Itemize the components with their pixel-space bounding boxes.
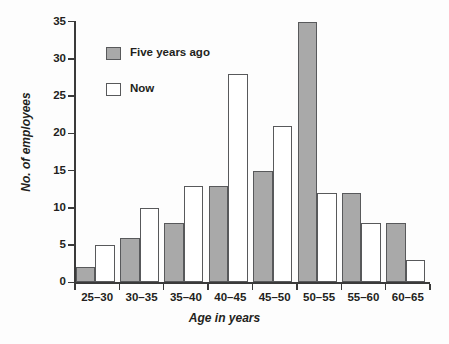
bar-30-35-five-years-ago	[120, 238, 140, 283]
y-tick-30	[68, 58, 74, 59]
bar-40-45-five-years-ago	[209, 186, 229, 283]
x-tick-4	[252, 284, 253, 290]
x-tick-2	[163, 284, 164, 290]
y-tick-5	[68, 244, 74, 245]
y-axis-title: No. of employees	[19, 72, 33, 212]
bar-45-50-now	[273, 126, 293, 282]
bar-35-40-now	[184, 186, 204, 283]
legend-item-now: Now	[106, 82, 210, 96]
bar-35-40-five-years-ago	[164, 223, 184, 283]
x-tick-0	[74, 284, 75, 290]
x-tick-5	[296, 284, 297, 290]
bar-50-55-now	[317, 193, 337, 282]
bar-25-30-five-years-ago	[76, 267, 96, 282]
bar-55-60-now	[361, 223, 381, 283]
y-tick-10	[68, 207, 74, 208]
y-axis-line	[74, 21, 76, 283]
x-axis-title: Age in years	[0, 311, 449, 325]
y-tick-15	[68, 170, 74, 171]
x-tick-8	[429, 284, 430, 290]
bar-60-65-five-years-ago	[386, 223, 406, 283]
legend-item-five-years-ago: Five years ago	[106, 46, 210, 60]
bar-60-65-now	[406, 260, 426, 282]
y-tick-label-35: 35	[26, 16, 66, 28]
bar-55-60-five-years-ago	[342, 193, 362, 282]
y-tick-label-5: 5	[26, 239, 66, 251]
legend: Five years ago Now	[106, 46, 210, 118]
x-tick-7	[385, 284, 386, 290]
y-tick-label-0: 0	[26, 276, 66, 288]
bar-25-30-now	[95, 245, 115, 282]
x-tick-6	[341, 284, 342, 290]
bar-chart: 05101520253035 25–3030–3535–4040–4545–50…	[0, 0, 449, 344]
bar-45-50-five-years-ago	[253, 171, 273, 283]
y-tick-35	[68, 21, 74, 22]
bar-30-35-now	[140, 208, 160, 283]
legend-label-five-years-ago: Five years ago	[130, 47, 210, 59]
bar-40-45-now	[228, 74, 248, 283]
bar-50-55-five-years-ago	[298, 22, 318, 283]
y-tick-20	[68, 133, 74, 134]
y-tick-0	[68, 282, 74, 283]
y-tick-label-30: 30	[26, 53, 66, 65]
x-tick-label-7: 60–65	[373, 292, 443, 304]
x-tick-3	[207, 284, 208, 290]
y-tick-25	[68, 95, 74, 96]
legend-swatch-five-years-ago	[106, 47, 121, 60]
x-tick-1	[119, 284, 120, 290]
legend-swatch-now	[106, 83, 121, 96]
legend-label-now: Now	[130, 83, 154, 95]
